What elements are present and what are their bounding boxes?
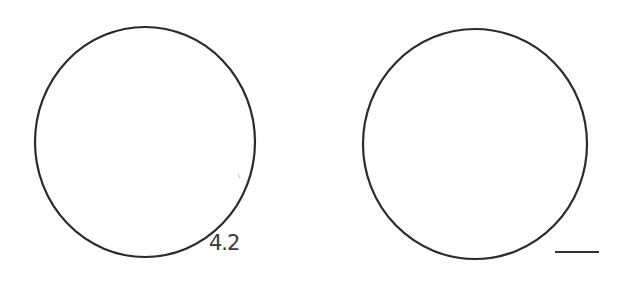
diagram-canvas <box>0 0 625 283</box>
stray-mark <box>238 174 240 178</box>
left-circle-label: 4.2 <box>209 231 239 255</box>
left-circle <box>35 27 255 257</box>
right-circle-answer-blank <box>555 251 599 253</box>
right-circle <box>363 29 587 259</box>
